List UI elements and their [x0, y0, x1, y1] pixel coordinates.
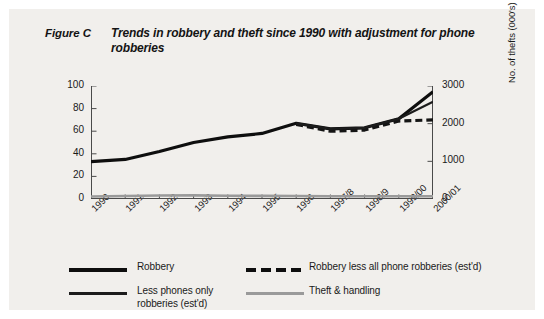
- legend-label: Theft & handling: [309, 285, 429, 298]
- legend-swatch: [246, 268, 304, 272]
- y-tick-label-left: 100: [54, 79, 84, 90]
- figure-inner: Figure C Trends in robbery and theft sin…: [9, 9, 535, 310]
- legend-swatch: [246, 292, 304, 295]
- legend-label: Robbery: [137, 261, 199, 274]
- y-tick-label-left: 0: [54, 192, 84, 203]
- figure-title: Trends in robbery and theft since 1990 w…: [111, 26, 515, 56]
- y-tick-label-left: 20: [54, 169, 84, 180]
- legend-swatch: [69, 292, 127, 295]
- legend-swatch: [69, 268, 127, 272]
- plot-area: [91, 86, 433, 199]
- legend-label: Robbery less all phone robberies (est'd): [309, 261, 541, 274]
- y-tick-label-left: 80: [54, 102, 84, 113]
- chart-svg: [91, 86, 433, 199]
- series-layer: [91, 92, 433, 197]
- y-tick-label-right: 1000: [442, 154, 476, 165]
- y-tick-label-right: 2000: [442, 117, 476, 128]
- figure-panel: Figure C Trends in robbery and theft sin…: [0, 0, 544, 319]
- figure-label: Figure C: [45, 26, 111, 40]
- y-axis-right-title: No. of thefts (000's): [506, 2, 517, 83]
- legend-label: Less phones only robberies (est'd): [137, 285, 241, 310]
- y-tick-label-right: 3000: [442, 79, 476, 90]
- figure-header: Figure C Trends in robbery and theft sin…: [45, 26, 515, 56]
- series-line-robbery: [91, 92, 433, 162]
- y-tick-label-left: 60: [54, 124, 84, 135]
- axes-layer: [91, 86, 433, 199]
- y-tick-label-left: 40: [54, 147, 84, 158]
- series-line-theft-handling: [91, 195, 433, 196]
